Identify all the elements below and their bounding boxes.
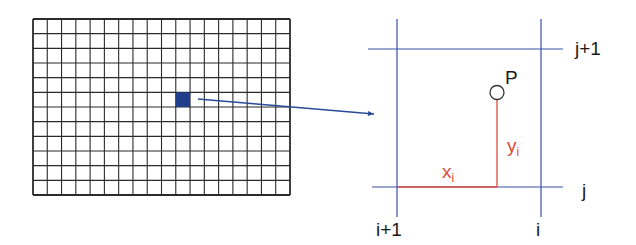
- label-j-plus-1: j+1: [574, 38, 601, 59]
- label-j: j: [581, 180, 586, 201]
- label-x-offset: xi: [442, 161, 454, 185]
- label-y-offset: yi: [507, 135, 519, 159]
- label-i: i: [536, 219, 540, 240]
- point-label: P: [505, 67, 518, 88]
- cell-detail: P j+1 j i+1 i yi xi: [368, 19, 601, 240]
- diagram-canvas: P j+1 j i+1 i yi xi: [0, 0, 636, 245]
- label-i-plus-1: i+1: [376, 219, 402, 240]
- highlighted-cell: [176, 92, 190, 107]
- pixel-grid: [33, 19, 290, 195]
- point-p-marker: [490, 86, 504, 100]
